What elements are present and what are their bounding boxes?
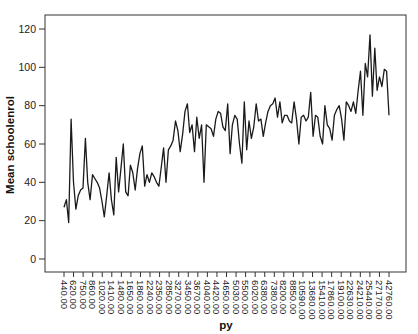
x-tick-label: 1480.00 — [116, 280, 127, 314]
y-tick-label: 0 — [30, 253, 36, 265]
y-tick-label: 80 — [24, 99, 36, 111]
x-tick-label: 15410.00 — [317, 280, 328, 320]
x-tick-label: 1650.00 — [125, 280, 136, 314]
x-tick-label: 8850.00 — [288, 280, 299, 314]
x-tick-label: 3450.00 — [183, 280, 194, 314]
x-tick-label: 2850.00 — [164, 280, 175, 314]
x-tick-label: 860.00 — [87, 280, 98, 309]
y-tick-label: 100 — [18, 61, 36, 73]
x-tick-label: 4420.00 — [211, 280, 222, 314]
x-tick-label: 8200.00 — [278, 280, 289, 314]
x-tick-label: 17860.00 — [326, 280, 337, 320]
y-axis-title: Mean schoolenrol — [4, 96, 16, 194]
x-tick-label: 19100.00 — [336, 280, 347, 320]
x-tick-label: 24210.00 — [355, 280, 366, 320]
y-axis: 020406080100120 — [18, 23, 45, 265]
x-tick-label: 7380.00 — [269, 280, 280, 314]
x-tick-label: 3670.00 — [192, 280, 203, 314]
line-chart: 020406080100120 440.00620.00750.00860.00… — [0, 0, 418, 334]
x-tick-label: 6380.00 — [259, 280, 270, 314]
x-tick-label: 25440.00 — [364, 280, 375, 320]
x-tick-label: 27170.00 — [374, 280, 385, 320]
x-tick-label: 42760.00 — [384, 280, 395, 320]
y-tick-label: 40 — [24, 176, 36, 188]
y-tick-label: 20 — [24, 214, 36, 226]
x-tick-label: 1410.00 — [106, 280, 117, 314]
plot-frame — [45, 15, 406, 272]
y-tick-label: 60 — [24, 138, 36, 150]
x-axis-title: py — [219, 319, 233, 331]
x-tick-label: 440.00 — [59, 280, 70, 309]
x-tick-label: 22630.00 — [345, 280, 356, 320]
x-tick-label: 6020.00 — [250, 280, 261, 314]
x-tick-label: 5030.00 — [231, 280, 242, 314]
x-tick-label: 2350.00 — [154, 280, 165, 314]
x-axis: 440.00620.00750.00860.001020.001410.0014… — [59, 272, 395, 320]
x-tick-label: 13680.00 — [307, 280, 318, 320]
x-tick-label: 2240.00 — [145, 280, 156, 314]
y-tick-label: 120 — [18, 23, 36, 35]
x-tick-label: 3270.00 — [173, 280, 184, 314]
x-tick-label: 750.00 — [78, 280, 89, 309]
x-tick-label: 1860.00 — [135, 280, 146, 314]
x-tick-label: 620.00 — [68, 280, 79, 309]
x-tick-label: 10590.00 — [297, 280, 308, 320]
x-tick-label: 4040.00 — [202, 280, 213, 314]
x-tick-label: 4650.00 — [221, 280, 232, 314]
x-tick-label: 1020.00 — [97, 280, 108, 314]
data-line — [64, 35, 389, 223]
x-tick-label: 5500.00 — [240, 280, 251, 314]
